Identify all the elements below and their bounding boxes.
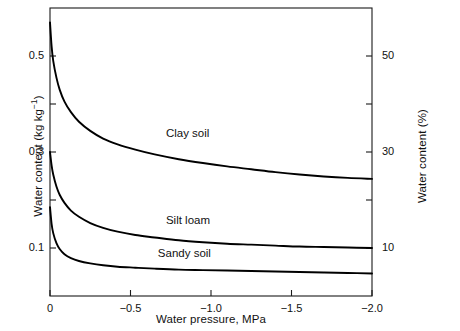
y-tick-label-left: 0.5 bbox=[4, 49, 44, 61]
chart-figure: Water content (kg kg−1) Water content (%… bbox=[0, 0, 460, 331]
series-line bbox=[50, 22, 372, 178]
y-tick-label-right: 30 bbox=[382, 145, 422, 157]
x-tick-label: −1.0 bbox=[186, 302, 236, 314]
x-tick-label: 0 bbox=[25, 302, 75, 314]
y-tick-label-right: 10 bbox=[382, 241, 422, 253]
y-tick-label-left: 0.3 bbox=[4, 145, 44, 157]
y-tick-label-left: 0.1 bbox=[4, 241, 44, 253]
series-annotation: Sandy soil bbox=[158, 247, 211, 259]
x-tick-label: −2.0 bbox=[347, 302, 397, 314]
y-tick-label-right: 50 bbox=[382, 49, 422, 61]
series-annotation: Silt loam bbox=[166, 214, 210, 226]
plot-frame bbox=[50, 8, 372, 296]
x-axis-title: Water pressure, MPa bbox=[50, 313, 372, 325]
series-line bbox=[50, 152, 372, 248]
x-tick-label: −1.5 bbox=[267, 302, 317, 314]
series-annotation: Clay soil bbox=[166, 127, 209, 139]
series-line bbox=[50, 207, 372, 273]
data-curves bbox=[50, 22, 372, 273]
x-tick-label: −0.5 bbox=[106, 302, 156, 314]
